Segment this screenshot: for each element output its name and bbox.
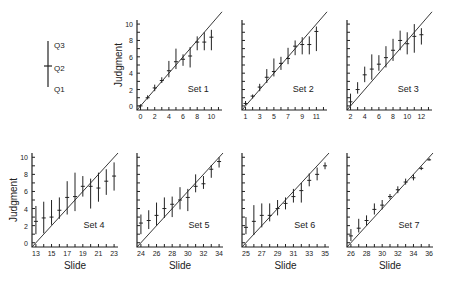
x-tick-label: 8	[195, 113, 199, 120]
panel-3: 24681012Set 3	[347, 12, 432, 120]
y-tick-label: 0	[24, 240, 28, 247]
identity-line	[347, 12, 432, 110]
y-axis-label: Judgment	[8, 178, 19, 222]
x-tick-label: 11	[313, 113, 320, 120]
y-tick-label: 8	[24, 171, 28, 178]
y-tick-label: 6	[24, 188, 28, 195]
x-tick-label: 4	[363, 113, 367, 120]
x-tick-label: 9	[300, 113, 304, 120]
x-tick-label: 32	[200, 250, 208, 257]
x-tick-label: 36	[425, 250, 433, 257]
x-tick-label: 34	[215, 250, 223, 257]
axes	[137, 20, 222, 110]
legend-q1: Q1	[54, 85, 65, 94]
identity-line	[347, 153, 433, 247]
y-tick-label: 2	[24, 223, 28, 230]
legend-q2: Q2	[54, 64, 65, 73]
panel-title: Set 1	[188, 84, 209, 94]
x-tick-label: 35	[321, 250, 329, 257]
x-tick-label: 10	[207, 113, 215, 120]
panel-title: Set 4	[83, 220, 104, 230]
x-axis-label: Slide	[64, 260, 87, 271]
x-tick-label: 6	[181, 113, 185, 120]
identity-line	[242, 12, 327, 110]
panel-title: Set 2	[293, 84, 314, 94]
x-tick-label: 30	[184, 250, 192, 257]
x-tick-label: 5	[272, 113, 276, 120]
x-tick-label: 12	[417, 113, 425, 120]
panel-4: 0246810Judgment131517192123SlideSet 4	[8, 153, 118, 271]
panel-title: Set 7	[398, 220, 419, 230]
x-tick-label: 34	[410, 250, 418, 257]
x-tick-label: 6	[377, 113, 381, 120]
x-tick-label: 23	[110, 250, 118, 257]
panel-5: 242628303234SlideSet 5	[137, 153, 223, 271]
x-tick-label: 29	[274, 250, 282, 257]
y-tick-label: 10	[20, 154, 28, 161]
x-tick-label: 1	[244, 113, 248, 120]
y-axis-label: Judgment	[113, 43, 124, 87]
panel-7: 262830323436SlideSet 7	[347, 153, 433, 271]
x-tick-label: 25	[242, 250, 250, 257]
x-tick-label: 19	[79, 250, 87, 257]
x-tick-label: 30	[378, 250, 386, 257]
x-tick-label: 26	[347, 250, 355, 257]
panel-1: 0246810Judgment0246810Set 1	[113, 12, 222, 120]
x-tick-label: 15	[48, 250, 56, 257]
panels: 0246810Judgment0246810Set 11357911Set 22…	[8, 12, 433, 271]
panel-2: 1357911Set 2	[242, 12, 327, 120]
y-tick-label: 0	[129, 103, 133, 110]
y-tick-label: 4	[129, 70, 133, 77]
x-axis-label: Slide	[169, 260, 192, 271]
x-tick-label: 26	[153, 250, 161, 257]
x-tick-label: 8	[391, 113, 395, 120]
x-tick-label: 28	[363, 250, 371, 257]
x-tick-label: 28	[168, 250, 176, 257]
axes	[347, 20, 432, 110]
legend-q3: Q3	[54, 41, 65, 50]
x-tick-label: 21	[95, 250, 103, 257]
x-tick-label: 2	[349, 113, 353, 120]
y-tick-label: 6	[129, 54, 133, 61]
x-tick-label: 24	[137, 250, 145, 257]
x-tick-label: 13	[32, 250, 40, 257]
identity-line	[137, 12, 222, 110]
x-tick-label: 2	[153, 113, 157, 120]
panel-6: 252729313335SlideSet 6	[242, 153, 329, 271]
x-tick-label: 0	[139, 113, 143, 120]
y-tick-label: 2	[129, 87, 133, 94]
x-tick-label: 10	[403, 113, 411, 120]
x-axis-label: Slide	[379, 260, 402, 271]
x-tick-label: 31	[290, 250, 298, 257]
x-tick-label: 33	[305, 250, 313, 257]
x-tick-label: 27	[258, 250, 266, 257]
axes	[242, 20, 327, 110]
y-tick-label: 10	[125, 21, 133, 28]
x-tick-label: 4	[167, 113, 171, 120]
panel-title: Set 5	[188, 220, 209, 230]
quartile-legend	[44, 41, 52, 87]
panel-title: Set 6	[294, 220, 315, 230]
x-tick-label: 7	[286, 113, 290, 120]
x-tick-label: 3	[258, 113, 262, 120]
figure: Q3 Q2 Q1 0246810Judgment0246810Set 11357…	[0, 0, 449, 284]
y-tick-label: 4	[24, 206, 28, 213]
y-tick-label: 8	[129, 37, 133, 44]
x-tick-label: 17	[63, 250, 71, 257]
x-axis-label: Slide	[274, 260, 297, 271]
x-tick-label: 32	[394, 250, 402, 257]
panel-title: Set 3	[398, 84, 419, 94]
